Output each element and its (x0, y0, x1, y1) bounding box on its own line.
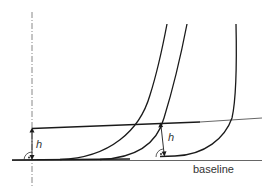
h-label-left: h (36, 138, 42, 150)
measurement-line (32, 122, 200, 129)
right-angle-dot-left (28, 157, 30, 159)
diagram-canvas: h h baseline (0, 0, 270, 190)
curve-left (60, 24, 167, 160)
baseline-label: baseline (193, 163, 234, 175)
h-label-right: h (168, 131, 174, 143)
right-angle-dot-right (160, 153, 162, 155)
